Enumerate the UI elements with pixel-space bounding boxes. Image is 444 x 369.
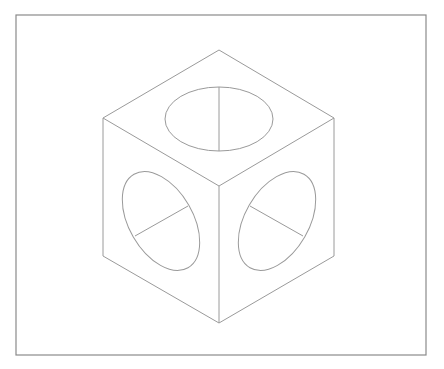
right-face-divider-line [250,206,303,236]
isometric-cube-figure [0,0,444,369]
left-face-divider-line [135,206,188,236]
left-face-circle [106,158,215,284]
top-face-circle [165,87,273,151]
cube-edge-right-to-center [219,118,334,186]
right-face-circle [222,158,331,284]
drawing-canvas [0,0,444,369]
